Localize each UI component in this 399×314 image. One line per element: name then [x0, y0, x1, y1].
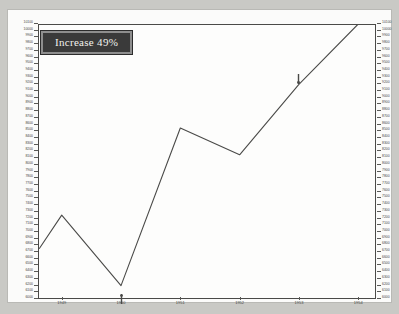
y-tick-dash — [377, 231, 381, 232]
y-tick-dash — [377, 110, 381, 111]
y-tick-label: 7100 — [382, 221, 390, 225]
marker-1953 — [297, 70, 300, 80]
y-tick-label: 7900 — [25, 168, 33, 172]
y-tick-dash — [377, 97, 381, 98]
y-tick-label: 7900 — [382, 168, 390, 172]
y-tick-label: 9800 — [25, 40, 33, 44]
y-tick-label: 9100 — [25, 87, 33, 91]
y-tick-label: 8500 — [382, 127, 390, 131]
y-tick-dash — [377, 271, 381, 272]
y-tick-label: 9700 — [25, 47, 33, 51]
x-tick-label: 1951 — [176, 300, 185, 306]
y-tick-label: 6200 — [25, 282, 33, 286]
y-tick-label: 6900 — [25, 235, 33, 239]
y-tick-label: 7200 — [25, 215, 33, 219]
y-tick-dash — [377, 83, 381, 84]
y-tick-dash — [377, 291, 381, 292]
chart-page: 1010010000990098009700960095009400930092… — [0, 0, 399, 314]
y-tick-label: 6100 — [382, 288, 390, 292]
y-tick-dash — [377, 117, 381, 118]
x-tick-label: 1953 — [294, 300, 303, 306]
y-tick-label: 6500 — [382, 261, 390, 265]
y-tick-label: 8700 — [25, 114, 33, 118]
chart-title-badge: Increase 49% — [41, 31, 132, 54]
y-tick-label: 7200 — [382, 215, 390, 219]
y-tick-label: 8000 — [25, 161, 33, 165]
y-tick-dash — [377, 184, 381, 185]
y-tick-label: 7600 — [382, 188, 390, 192]
y-tick-label: 9600 — [382, 54, 390, 58]
y-tick-label: 7800 — [382, 174, 390, 178]
y-tick-label: 9400 — [382, 67, 390, 71]
y-tick-label: 8200 — [382, 147, 390, 151]
y-tick-label: 10100 — [24, 20, 33, 24]
y-tick-label: 6600 — [25, 255, 33, 259]
y-tick-label: 7700 — [382, 181, 390, 185]
y-tick-label: 6800 — [25, 241, 33, 245]
y-tick-label: 8000 — [382, 161, 390, 165]
y-tick-label: 6000 — [25, 295, 33, 299]
y-tick-label: 9200 — [25, 80, 33, 84]
arrow-down-icon — [297, 74, 300, 84]
y-tick-label: 6800 — [382, 241, 390, 245]
y-tick-label: 9400 — [25, 67, 33, 71]
y-tick-dash — [377, 197, 381, 198]
y-tick-label: 7700 — [25, 181, 33, 185]
y-tick-label: 10100 — [382, 20, 391, 24]
y-tick-dash — [377, 90, 381, 91]
y-tick-label: 9500 — [382, 60, 390, 64]
y-tick-dash — [377, 298, 381, 299]
y-tick-label: 6700 — [382, 248, 390, 252]
y-tick-dash — [377, 63, 381, 64]
y-tick-label: 7300 — [25, 208, 33, 212]
x-tick-label: 1949 — [57, 300, 66, 306]
y-tick-label: 8300 — [25, 141, 33, 145]
y-tick-dash — [377, 218, 381, 219]
y-tick-dash — [377, 191, 381, 192]
y-tick-label: 9900 — [382, 33, 390, 37]
y-tick-label: 8100 — [25, 154, 33, 158]
y-tick-label: 8200 — [25, 147, 33, 151]
y-tick-label: 8500 — [25, 127, 33, 131]
arrow-up-icon — [120, 294, 123, 304]
y-tick-label: 7000 — [382, 228, 390, 232]
y-tick-dash — [377, 137, 381, 138]
y-tick-dash — [377, 258, 381, 259]
y-tick-label: 7500 — [25, 194, 33, 198]
y-tick-label: 8600 — [382, 121, 390, 125]
y-tick-dash — [377, 23, 381, 24]
y-tick-dash — [377, 124, 381, 125]
y-tick-dash — [377, 164, 381, 165]
y-tick-dash — [377, 171, 381, 172]
y-tick-label: 9000 — [25, 94, 33, 98]
y-tick-label: 9000 — [382, 94, 390, 98]
y-tick-dash — [377, 150, 381, 151]
y-tick-label: 8900 — [25, 100, 33, 104]
y-tick-dash — [377, 144, 381, 145]
y-tick-label: 8700 — [382, 114, 390, 118]
y-tick-dash — [377, 130, 381, 131]
y-tick-dash — [377, 43, 381, 44]
y-tick-label: 9200 — [382, 80, 390, 84]
y-tick-label: 6200 — [382, 282, 390, 286]
y-tick-label: 6900 — [382, 235, 390, 239]
y-tick-label: 6100 — [25, 288, 33, 292]
y-tick-label: 6500 — [25, 261, 33, 265]
y-tick-dash — [377, 70, 381, 71]
y-tick-dash — [377, 177, 381, 178]
y-tick-label: 7000 — [25, 228, 33, 232]
x-tick-label: 1952 — [235, 300, 244, 306]
y-tick-label: 7100 — [25, 221, 33, 225]
y-tick-dash — [377, 264, 381, 265]
y-tick-label: 8300 — [382, 141, 390, 145]
chart-paper: 1010010000990098009700960095009400930092… — [8, 10, 391, 302]
y-tick-dash — [377, 50, 381, 51]
y-tick-label: 6300 — [25, 275, 33, 279]
y-tick-label: 6400 — [25, 268, 33, 272]
data-line — [38, 24, 376, 299]
y-axis-left-ticks: 1010010000990098009700960095009400930092… — [10, 24, 38, 299]
series-polyline — [39, 24, 358, 286]
y-tick-dash — [377, 238, 381, 239]
y-tick-label: 8400 — [25, 134, 33, 138]
y-tick-label: 9100 — [382, 87, 390, 91]
